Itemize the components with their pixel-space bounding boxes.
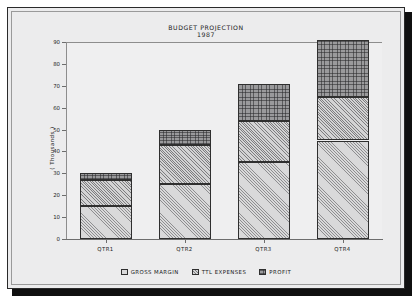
bar-segment-profit[interactable] <box>159 130 211 145</box>
y-axis-tick <box>62 195 66 196</box>
y-axis-tick <box>62 108 66 109</box>
bar-segment-ttl-expenses[interactable] <box>159 145 211 184</box>
bar-segment-ttl-expenses[interactable] <box>238 121 290 163</box>
legend-label: PROFIT <box>269 269 291 275</box>
y-axis-tick-label: 10 <box>53 214 60 220</box>
legend-item-gross-margin[interactable]: GROSS MARGIN <box>121 269 179 275</box>
y-axis-tick-label: 40 <box>53 148 60 154</box>
legend-item-ttl-expenses[interactable]: TTL EXPENSES <box>192 269 247 275</box>
y-axis-tick-label: 0 <box>57 236 60 242</box>
x-axis-line <box>65 239 383 240</box>
bar-qtr2[interactable] <box>159 42 211 239</box>
bar-qtr3[interactable] <box>238 42 290 239</box>
y-axis-tick-label: 30 <box>53 170 60 176</box>
y-axis-tick <box>62 239 66 240</box>
y-axis-tick-label: 90 <box>53 39 60 45</box>
legend-label: GROSS MARGIN <box>131 269 179 275</box>
y-axis-tick <box>62 130 66 131</box>
chart-frame: BUDGET PROJECTION 1987 ( Thousands ) 010… <box>7 7 405 289</box>
x-axis-tick <box>106 239 107 243</box>
bar-qtr1[interactable] <box>80 42 132 239</box>
y-axis-tick-label: 80 <box>53 61 60 67</box>
y-axis-tick-label: 70 <box>53 83 60 89</box>
x-axis-label-qtr4: QTR4 <box>334 246 350 252</box>
bar-segment-ttl-expenses[interactable] <box>80 180 132 206</box>
y-axis-tick <box>62 151 66 152</box>
legend-item-profit[interactable]: PROFIT <box>259 269 291 275</box>
x-axis-label-qtr3: QTR3 <box>255 246 271 252</box>
chart-title: BUDGET PROJECTION <box>8 24 404 31</box>
y-axis-tick <box>62 173 66 174</box>
chart-title-block: BUDGET PROJECTION 1987 <box>8 24 404 39</box>
y-axis-tick <box>62 64 66 65</box>
legend-swatch-icon <box>259 269 266 275</box>
bar-segment-gross-margin[interactable] <box>317 141 369 240</box>
x-axis-tick <box>185 239 186 243</box>
bar-qtr4[interactable] <box>317 42 369 239</box>
x-axis-label-qtr1: QTR1 <box>97 246 113 252</box>
bar-segment-profit[interactable] <box>238 84 290 121</box>
chart-legend: GROSS MARGINTTL EXPENSESPROFIT <box>8 269 404 275</box>
y-axis-tick-label: 50 <box>53 127 60 133</box>
y-axis-tick-label: 20 <box>53 192 60 198</box>
legend-label: TTL EXPENSES <box>202 269 247 275</box>
x-axis-tick <box>264 239 265 243</box>
y-axis-tick <box>62 217 66 218</box>
legend-swatch-icon <box>121 269 128 275</box>
legend-swatch-icon <box>192 269 199 275</box>
chart-subtitle: 1987 <box>8 31 404 38</box>
bar-segment-gross-margin[interactable] <box>159 184 211 239</box>
bar-segment-gross-margin[interactable] <box>238 162 290 239</box>
x-axis-label-qtr2: QTR2 <box>176 246 192 252</box>
bar-segment-profit[interactable] <box>317 40 369 97</box>
y-axis-tick-label: 60 <box>53 105 60 111</box>
bar-segment-ttl-expenses[interactable] <box>317 97 369 141</box>
y-axis-tick <box>62 86 66 87</box>
bar-segment-profit[interactable] <box>80 173 132 180</box>
screenshot-canvas: BUDGET PROJECTION 1987 ( Thousands ) 010… <box>0 0 418 300</box>
x-axis-tick <box>343 239 344 243</box>
bar-segment-gross-margin[interactable] <box>80 206 132 239</box>
y-axis-tick <box>62 42 66 43</box>
plot-area: 0102030405060708090 QTR1QTR2QTR3QTR4 <box>66 42 382 239</box>
